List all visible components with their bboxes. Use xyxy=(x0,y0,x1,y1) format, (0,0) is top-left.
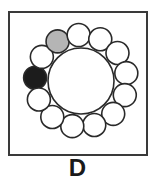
small-circle-white xyxy=(83,114,106,137)
small-circle-gray xyxy=(46,30,69,53)
figure-label: D xyxy=(0,156,155,180)
central-circle xyxy=(48,48,114,114)
small-circle-white xyxy=(115,62,138,85)
small-circle-white xyxy=(27,88,50,111)
small-circle-black xyxy=(24,66,47,89)
small-circle-white xyxy=(67,24,90,47)
